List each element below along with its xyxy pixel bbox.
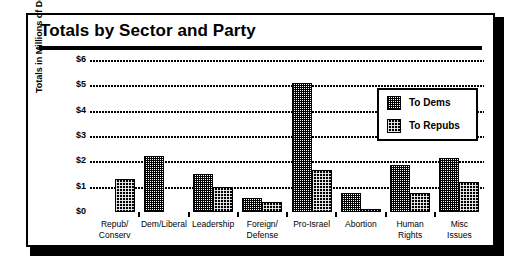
- bar-group: [238, 60, 287, 212]
- x-axis-labels: Repub/ ConservDem/LiberalLeadershipForei…: [90, 219, 484, 247]
- bar-to-repubs: [459, 182, 479, 212]
- bar-to-dems: [439, 158, 459, 212]
- x-tick-mark: [335, 212, 337, 217]
- x-tick-label: Pro-Israel: [293, 219, 330, 230]
- y-tick-label: $6: [76, 54, 86, 64]
- x-tick-label: Misc Issues: [447, 219, 472, 241]
- bar-to-dems: [242, 198, 262, 212]
- x-tick-label: Dem/Liberal: [141, 219, 187, 230]
- title-divider: [39, 46, 482, 50]
- legend-label-to-dems: To Dems: [409, 97, 451, 108]
- bar-group: [189, 60, 238, 212]
- legend-label-to-repubs: To Repubs: [409, 120, 460, 131]
- y-tick-label: $0: [76, 206, 86, 216]
- bar-to-dems: [341, 193, 361, 212]
- bar-to-repubs: [115, 179, 135, 212]
- y-tick-label: $4: [76, 105, 86, 115]
- bar-to-dems: [144, 156, 164, 212]
- y-axis-label: Totals in Millions of Dollars: [34, 0, 46, 93]
- x-tick-mark: [138, 212, 140, 217]
- x-axis-ticks: [90, 212, 484, 217]
- bar-to-dems: [292, 83, 312, 212]
- x-tick-mark: [237, 212, 239, 217]
- x-tick-mark: [434, 212, 436, 217]
- bar-to-repubs: [262, 202, 282, 212]
- bar-group: [287, 60, 336, 212]
- y-tick-label: $3: [76, 130, 86, 140]
- y-tick-label: $1: [76, 181, 86, 191]
- legend-swatch-to-dems-icon: [387, 96, 401, 110]
- chart-figure: Totals by Sector and Party Totals in Mil…: [0, 0, 507, 261]
- bar-to-repubs: [213, 187, 233, 212]
- x-tick-mark: [188, 212, 190, 217]
- legend-swatch-to-repubs-icon: [387, 119, 401, 133]
- x-tick-label: Foreign/ Defense: [247, 219, 279, 241]
- y-axis-ticks: $0$1$2$3$4$5$6: [50, 51, 86, 211]
- plot-area-wrapper: Totals in Millions of Dollars $0$1$2$3$4…: [28, 51, 493, 245]
- bar-to-repubs: [312, 170, 332, 212]
- bar-to-dems: [390, 165, 410, 212]
- x-tick-mark: [385, 212, 387, 217]
- x-tick-label: Leadership: [192, 219, 234, 230]
- bar-to-dems: [193, 174, 213, 212]
- page-title: Totals by Sector and Party: [40, 21, 256, 41]
- y-tick-label: $5: [76, 79, 86, 89]
- chart-panel: Totals by Sector and Party Totals in Mil…: [26, 13, 495, 247]
- x-tick-label: Human Rights: [396, 219, 423, 241]
- x-tick-mark: [286, 212, 288, 217]
- x-tick-label: Repub/ Conserv: [99, 219, 131, 241]
- chart-legend: To Dems To Repubs: [377, 88, 478, 141]
- bar-group: [90, 60, 139, 212]
- x-axis-baseline: [88, 248, 486, 252]
- y-tick-label: $2: [76, 155, 86, 165]
- bar-to-repubs: [410, 193, 430, 212]
- bar-group: [139, 60, 188, 212]
- x-tick-label: Abortion: [345, 219, 377, 230]
